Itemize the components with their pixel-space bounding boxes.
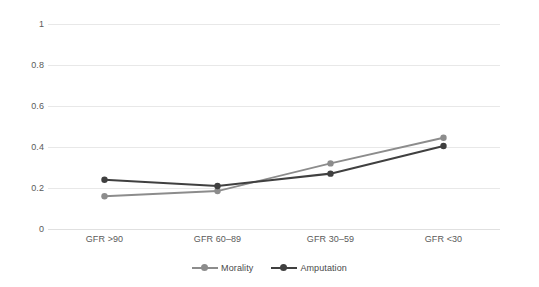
legend-marker-icon [192, 263, 218, 273]
legend-marker-icon [271, 263, 297, 273]
gridline-0-baseline [48, 229, 500, 230]
data-point-marker [214, 183, 220, 189]
legend-item-morality[interactable]: Morality [192, 263, 253, 273]
x-axis: GFR >90 GFR 60–89 GFR 30–59 GFR <30 [48, 234, 500, 248]
y-tick-label: 0.8 [0, 61, 44, 70]
data-point-marker [101, 177, 107, 183]
series-line-amputation [105, 146, 444, 186]
legend-label-amputation: Amputation [300, 263, 347, 273]
y-tick-label: 1 [0, 20, 44, 29]
y-tick-label: 0 [0, 225, 44, 234]
y-tick-label: 0.4 [0, 143, 44, 152]
y-tick-label: 0.6 [0, 102, 44, 111]
data-point-marker [327, 170, 333, 176]
chart-legend: Morality Amputation [0, 263, 539, 273]
data-point-marker [440, 135, 446, 141]
data-point-marker [101, 193, 107, 199]
y-axis: 1 0.8 0.6 0.4 0.2 0 [0, 24, 44, 229]
x-tick-label-1: GFR 60–89 [161, 234, 274, 245]
line-chart: 1 0.8 0.6 0.4 0.2 0 GFR >90 GFR 60–89 GF… [0, 0, 539, 287]
legend-item-amputation[interactable]: Amputation [271, 263, 347, 273]
plot-area [48, 24, 500, 229]
x-tick-label-2: GFR 30–59 [274, 234, 387, 245]
legend-dot [280, 264, 287, 271]
legend-label-morality: Morality [221, 263, 253, 273]
y-tick-label: 0.2 [0, 184, 44, 193]
legend-dot [201, 264, 208, 271]
series-lines [48, 24, 500, 229]
data-point-marker [327, 160, 333, 166]
data-point-marker [440, 143, 446, 149]
series-line-morality [105, 138, 444, 196]
x-tick-label-3: GFR <30 [387, 234, 500, 245]
x-tick-label-0: GFR >90 [48, 234, 161, 245]
